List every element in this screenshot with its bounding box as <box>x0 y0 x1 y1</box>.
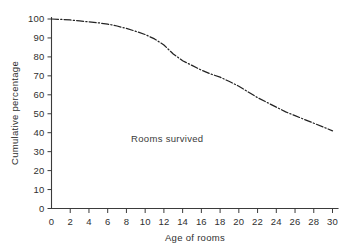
y-tick-label: 80 <box>34 51 45 62</box>
x-tick-label: 2 <box>67 216 72 227</box>
x-tick-label: 10 <box>140 216 151 227</box>
y-tick-label: 60 <box>34 89 45 100</box>
x-tick-label: 20 <box>233 216 244 227</box>
y-tick-label: 30 <box>34 146 45 157</box>
y-tick-label: 50 <box>34 108 45 119</box>
x-axis-title: Age of rooms <box>165 232 225 243</box>
x-tick-label: 28 <box>308 216 319 227</box>
y-tick-label: 20 <box>34 165 45 176</box>
x-tick-label: 8 <box>124 216 129 227</box>
y-tick-label: 40 <box>34 127 45 138</box>
chart-background <box>0 0 353 251</box>
x-tick-label: 26 <box>290 216 301 227</box>
y-tick-label: 0 <box>39 203 44 214</box>
x-tick-label: 30 <box>327 216 338 227</box>
y-axis-title: Cumulative percentage <box>9 61 20 165</box>
cumulative-percentage-chart: 0102030405060708090100 02468101214161820… <box>0 0 353 251</box>
y-tick-label: 10 <box>34 184 45 195</box>
x-tick-label: 24 <box>271 216 282 227</box>
x-tick-label: 16 <box>196 216 207 227</box>
y-tick-label: 100 <box>28 13 44 24</box>
y-tick-label: 90 <box>34 32 45 43</box>
x-tick-label: 18 <box>215 216 226 227</box>
x-tick-label: 6 <box>105 216 110 227</box>
x-tick-label: 14 <box>177 216 188 227</box>
x-tick-label: 12 <box>158 216 169 227</box>
plot-annotation-rooms-survived: Rooms survived <box>131 133 203 144</box>
x-tick-label: 4 <box>86 216 91 227</box>
chart-page: 0102030405060708090100 02468101214161820… <box>0 0 353 251</box>
y-tick-label: 70 <box>34 70 45 81</box>
x-tick-label: 0 <box>49 216 54 227</box>
x-tick-label: 22 <box>252 216 263 227</box>
